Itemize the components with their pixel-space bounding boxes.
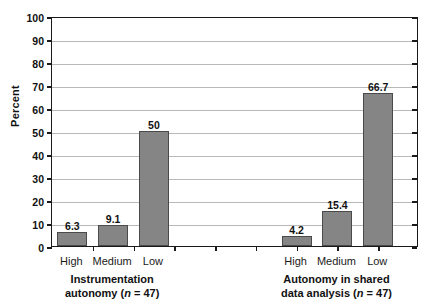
y-axis-tick-label: 30 — [32, 173, 44, 185]
bar — [282, 236, 312, 246]
x-axis-category-label: High — [284, 255, 307, 267]
bar-value-label: 4.2 — [289, 224, 304, 236]
x-axis-category-label: Medium — [317, 255, 356, 267]
x-axis-tick — [337, 246, 338, 251]
x-axis-category-label: High — [60, 255, 83, 267]
y-axis-tick — [47, 155, 52, 156]
y-axis-tick — [47, 40, 52, 41]
y-axis-title: Percent — [9, 69, 21, 143]
plot-area: 10090807060504030201006.39.1504.215.466.… — [51, 17, 418, 247]
y-axis-tick-right — [412, 132, 417, 133]
gridline — [52, 41, 417, 42]
group-caption: Instrumentationautonomy (n = 47) — [65, 273, 159, 300]
y-axis-tick-label: 40 — [32, 150, 44, 162]
y-axis-tick-right — [412, 201, 417, 202]
y-axis-tick-label: 50 — [32, 127, 44, 139]
bar-value-label: 6.3 — [65, 220, 80, 232]
y-axis-tick-label: 20 — [32, 196, 44, 208]
bar — [363, 93, 393, 246]
bar-value-label: 9.1 — [106, 213, 121, 225]
y-axis-tick-right — [412, 17, 417, 18]
y-axis-tick-label: 90 — [32, 35, 44, 47]
y-axis-tick-label: 100 — [26, 12, 44, 24]
bar-chart-figure: Percent 10090807060504030201006.39.1504.… — [0, 0, 432, 308]
y-axis-tick — [47, 224, 52, 225]
x-axis-tick — [215, 246, 216, 251]
x-axis-tick — [297, 246, 298, 251]
y-axis-tick-right — [412, 155, 417, 156]
y-axis-tick-right — [412, 247, 417, 248]
x-axis-category-label: Low — [143, 255, 163, 267]
y-axis-tick-label: 0 — [38, 242, 44, 254]
bar — [139, 131, 169, 246]
y-axis-tick-label: 70 — [32, 81, 44, 93]
group-caption-line2: data analysis (n = 47) — [281, 287, 392, 301]
x-axis-tick — [378, 246, 379, 251]
y-axis-tick — [47, 86, 52, 87]
y-axis-tick-right — [412, 109, 417, 110]
x-axis-tick — [93, 246, 94, 251]
y-axis-tick-right — [412, 40, 417, 41]
x-axis-category-label: Low — [367, 255, 387, 267]
y-axis-tick — [47, 201, 52, 202]
group-caption-line1: Autonomy in shared — [281, 273, 392, 287]
bar — [322, 211, 352, 246]
gridline — [52, 64, 417, 65]
y-axis-tick — [47, 63, 52, 64]
group-caption-line2: autonomy (n = 47) — [65, 287, 159, 301]
x-axis-tick — [174, 246, 175, 251]
y-axis-tick — [47, 132, 52, 133]
y-axis-tick-right — [412, 86, 417, 87]
group-caption: Autonomy in shareddata analysis (n = 47) — [281, 273, 392, 300]
x-axis-tick — [134, 246, 135, 251]
bar-value-label: 50 — [148, 119, 160, 131]
y-axis-tick-label: 60 — [32, 104, 44, 116]
y-axis-tick-label: 80 — [32, 58, 44, 70]
bar-value-label: 66.7 — [368, 81, 388, 93]
x-axis-category-label: Medium — [93, 255, 132, 267]
y-axis-tick-label: 10 — [32, 219, 44, 231]
gridline — [52, 87, 417, 88]
y-axis-tick-right — [412, 178, 417, 179]
y-axis-tick-right — [412, 63, 417, 64]
bar — [57, 232, 87, 246]
y-axis-tick-right — [412, 224, 417, 225]
bar — [98, 225, 128, 246]
y-axis-tick — [47, 17, 52, 18]
bar-value-label: 15.4 — [327, 199, 347, 211]
group-caption-line1: Instrumentation — [65, 273, 159, 287]
y-axis-tick — [47, 247, 52, 248]
y-axis-tick — [47, 178, 52, 179]
y-axis-tick — [47, 109, 52, 110]
x-axis-tick — [256, 246, 257, 251]
